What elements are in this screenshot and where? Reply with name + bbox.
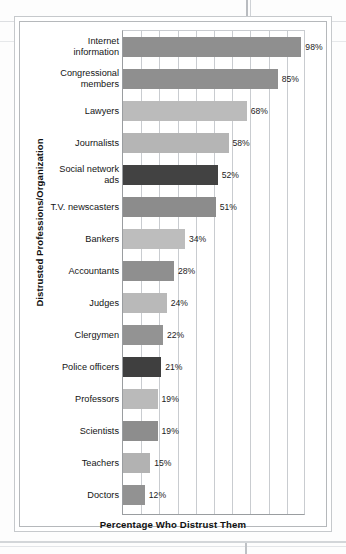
category-label-line: Clergymen: [75, 330, 119, 340]
category-label-line: Congressional: [60, 68, 119, 78]
category-label: Teachers: [23, 458, 119, 469]
bar-value-label: 34%: [185, 234, 206, 244]
scan-rule-bottom: [0, 541, 346, 543]
bar-track: 22%: [123, 319, 305, 351]
category-label-line: Lawyers: [85, 106, 119, 116]
bar[interactable]: [123, 69, 278, 88]
bar-value-label: 85%: [278, 74, 299, 84]
category-label: Accountants: [23, 266, 119, 277]
bar-value-label: 28%: [174, 266, 195, 276]
category-label: Congressionalmembers: [23, 68, 119, 89]
bar-value-label: 19%: [158, 394, 179, 404]
bar-track: 34%: [123, 223, 305, 255]
category-label-line: T.V. newscasters: [50, 202, 119, 212]
x-axis-title: Percentage Who Distrust Them: [19, 519, 327, 530]
category-label: Doctors: [23, 490, 119, 501]
bar[interactable]: [123, 101, 247, 120]
category-label-line: Scientists: [80, 426, 119, 436]
category-label-line: Bankers: [85, 234, 119, 244]
bar-row: Doctors12%: [19, 479, 327, 511]
category-label: Clergymen: [23, 330, 119, 341]
bar-row: Teachers15%: [19, 447, 327, 479]
bar-row: Scientists19%: [19, 415, 327, 447]
bar-row: Congressionalmembers85%: [19, 63, 327, 95]
bar-row: Bankers34%: [19, 223, 327, 255]
bar-track: 21%: [123, 351, 305, 383]
bar[interactable]: [123, 133, 229, 152]
category-label-line: Accountants: [68, 266, 119, 276]
bar-value-label: 52%: [218, 170, 239, 180]
category-label-line: Police officers: [62, 362, 119, 372]
category-label-line: Professors: [75, 394, 119, 404]
bar[interactable]: [123, 421, 158, 440]
bar-track: 19%: [123, 415, 305, 447]
bar-track: 52%: [123, 159, 305, 191]
bar[interactable]: [123, 261, 174, 280]
bar-row: Journalists58%: [19, 127, 327, 159]
category-label: T.V. newscasters: [23, 202, 119, 213]
bar-track: 19%: [123, 383, 305, 415]
bar-row: Accountants28%: [19, 255, 327, 287]
bar-row: Clergymen22%: [19, 319, 327, 351]
bar-row: Judges24%: [19, 287, 327, 319]
bar-value-label: 58%: [229, 138, 250, 148]
category-label: Police officers: [23, 362, 119, 373]
scanned-chart-page: Distrusted Professions/Organization Inte…: [0, 0, 346, 554]
bar-value-label: 12%: [145, 490, 166, 500]
bar[interactable]: [123, 37, 301, 56]
bar[interactable]: [123, 357, 161, 376]
bar-track: 98%: [123, 31, 305, 63]
category-label: Bankers: [23, 234, 119, 245]
category-label: Judges: [23, 298, 119, 309]
bar-row: Social networkads52%: [19, 159, 327, 191]
bar[interactable]: [123, 165, 218, 184]
bar-row: Internetinformation98%: [19, 31, 327, 63]
category-label: Lawyers: [23, 106, 119, 117]
scan-rule-bottom-secondary: [0, 546, 346, 547]
category-label-line: Journalists: [75, 138, 119, 148]
bar-value-label: 22%: [163, 330, 184, 340]
bar-track: 85%: [123, 63, 305, 95]
bar[interactable]: [123, 389, 158, 408]
bar-row: Police officers21%: [19, 351, 327, 383]
category-label-line: information: [74, 47, 119, 57]
category-label-line: Social network: [59, 164, 119, 174]
bar-value-label: 21%: [161, 362, 182, 372]
bar-value-label: 51%: [216, 202, 237, 212]
category-label-line: Teachers: [82, 458, 119, 468]
bar-track: 24%: [123, 287, 305, 319]
bar-row: T.V. newscasters51%: [19, 191, 327, 223]
bar-chart: Distrusted Professions/Organization Inte…: [19, 21, 327, 527]
bar-value-label: 98%: [301, 42, 322, 52]
category-label: Internetinformation: [23, 36, 119, 57]
bar-value-label: 68%: [247, 106, 268, 116]
bar-value-label: 19%: [158, 426, 179, 436]
bar[interactable]: [123, 453, 150, 472]
bar-value-label: 24%: [167, 298, 188, 308]
category-label: Social networkads: [23, 164, 119, 185]
bar-track: 51%: [123, 191, 305, 223]
bar-track: 58%: [123, 127, 305, 159]
bar-row: Lawyers68%: [19, 95, 327, 127]
bar-track: 28%: [123, 255, 305, 287]
bar-value-label: 15%: [150, 458, 171, 468]
category-label-line: ads: [104, 175, 119, 185]
bar[interactable]: [123, 325, 163, 344]
category-label: Professors: [23, 394, 119, 405]
category-label: Journalists: [23, 138, 119, 149]
bar-track: 68%: [123, 95, 305, 127]
bar-track: 15%: [123, 447, 305, 479]
bar[interactable]: [123, 197, 216, 216]
page-gutter-mark-bottom: [245, 543, 247, 554]
category-label-line: members: [81, 79, 119, 89]
bar-track: 12%: [123, 479, 305, 511]
category-label-line: Internet: [88, 36, 119, 46]
bar[interactable]: [123, 485, 145, 504]
category-label: Scientists: [23, 426, 119, 437]
bar-row: Professors19%: [19, 383, 327, 415]
category-label-line: Judges: [89, 298, 119, 308]
bar[interactable]: [123, 229, 185, 248]
bar[interactable]: [123, 293, 167, 312]
category-label-line: Doctors: [87, 490, 119, 500]
